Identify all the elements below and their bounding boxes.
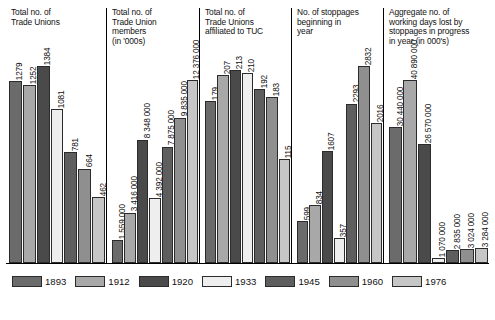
bar-group: 115 <box>279 8 290 263</box>
bar-value-label: 3 284 000 <box>482 212 490 247</box>
bar-group: 30 440 000 <box>389 8 402 263</box>
bar-group: 357 <box>334 8 345 263</box>
trade-union-statistics-chart: Total no. of Trade Unions127912521384108… <box>0 0 495 320</box>
legend-label: 1960 <box>362 277 383 287</box>
legend-swatch <box>329 276 359 287</box>
bar-group: 834 <box>309 8 320 263</box>
legend-swatch <box>75 276 105 287</box>
bar-1976: 12 376 000 <box>187 80 198 263</box>
bar-group: 3 024 000 <box>460 8 473 263</box>
bar-1912: 207 <box>217 75 228 263</box>
bar-group: 1252 <box>23 8 36 263</box>
bar-group: 40 890 000 <box>403 8 416 263</box>
bar-1912: 834 <box>309 205 320 263</box>
bar-1893: 599 <box>297 221 308 263</box>
bar-group: 2832 <box>358 8 369 263</box>
bar-group: 183 <box>266 8 277 263</box>
bar-1960: 183 <box>266 97 277 263</box>
legend-item-1893[interactable]: 1893 <box>12 276 66 287</box>
chart-panel-1: Total no. of Trade Unions127912521384108… <box>6 8 106 263</box>
legend-label: 1893 <box>45 277 66 287</box>
bar-group: 1081 <box>51 8 64 263</box>
bar-1945: 781 <box>64 152 77 263</box>
bar-group: 664 <box>78 8 91 263</box>
bar-1933: 4 392 000 <box>149 198 160 263</box>
chart-panel-2: Total no. of Trade Union members (in '00… <box>106 8 199 263</box>
bar-1960: 3 024 000 <box>460 249 473 263</box>
bar-group: 3 284 000 <box>475 8 488 263</box>
bar-group: 1607 <box>322 8 333 263</box>
bar-1920: 1384 <box>37 66 50 263</box>
bar-1933: 1081 <box>51 109 64 263</box>
bar-1960: 9 835 000 <box>174 118 185 263</box>
bar-group: 207 <box>217 8 228 263</box>
legend-item-1960[interactable]: 1960 <box>329 276 383 287</box>
legend-item-1976[interactable]: 1976 <box>392 276 446 287</box>
bar-1912: 1252 <box>23 85 36 263</box>
bar-1933: 357 <box>334 238 345 263</box>
panel-bars: 1 559 0003 416 0008 348 0004 392 0007 87… <box>112 8 199 263</box>
legend-item-1933[interactable]: 1933 <box>202 276 256 287</box>
panel-bars: 1279125213841081781664462 <box>9 8 106 263</box>
bar-group: 179 <box>205 8 216 263</box>
bar-group: 8 348 000 <box>137 8 148 263</box>
bar-group: 2016 <box>371 8 382 263</box>
chart-baseline <box>6 263 489 264</box>
bar-1976: 2016 <box>371 123 382 263</box>
chart-legend: 1893191219201933194519601976 <box>12 276 482 287</box>
bar-1960: 664 <box>78 169 91 264</box>
bar-1945: 7 875 000 <box>162 147 173 263</box>
legend-label: 1945 <box>298 277 319 287</box>
bar-group: 3 416 000 <box>124 8 135 263</box>
chart-panel-5: Aggregate no. of working days lost by st… <box>383 8 489 263</box>
bar-group: 210 <box>242 8 253 263</box>
bar-group: 7 875 000 <box>162 8 173 263</box>
bar-1960: 2832 <box>358 66 369 263</box>
bar-group: 599 <box>297 8 308 263</box>
legend-item-1945[interactable]: 1945 <box>265 276 319 287</box>
legend-swatch <box>12 276 42 287</box>
bar-1912: 3 416 000 <box>124 213 135 264</box>
bar-group: 1384 <box>37 8 50 263</box>
chart-panels: Total no. of Trade Unions127912521384108… <box>6 8 489 263</box>
bar-1945: 2293 <box>346 104 357 264</box>
legend-swatch <box>392 276 422 287</box>
bar-group: 1 559 000 <box>112 8 123 263</box>
bar-group: 1279 <box>9 8 22 263</box>
legend-label: 1920 <box>172 277 193 287</box>
bar-group: 1 070 000 <box>432 8 445 263</box>
bar-group: 781 <box>64 8 77 263</box>
legend-item-1920[interactable]: 1920 <box>139 276 193 287</box>
bar-1933: 210 <box>242 73 253 263</box>
bar-group: 2 835 000 <box>446 8 459 263</box>
chart-panel-4: No. of stoppages beginning in year599834… <box>291 8 383 263</box>
bar-1920: 8 348 000 <box>137 140 148 263</box>
panel-bars: 5998341607357229328322016 <box>297 8 383 263</box>
legend-swatch <box>202 276 232 287</box>
bar-1976: 462 <box>92 197 105 263</box>
bar-1920: 26 570 000 <box>418 144 431 263</box>
bar-1920: 213 <box>230 70 241 263</box>
legend-label: 1933 <box>235 277 256 287</box>
bar-1912: 40 890 000 <box>403 80 416 263</box>
bar-1976: 115 <box>279 159 290 263</box>
panel-bars: 179207213210192183115 <box>205 8 291 263</box>
chart-panel-3: Total no. of Trade Unions affiliated to … <box>199 8 291 263</box>
bar-1945: 2 835 000 <box>446 250 459 263</box>
legend-item-1912[interactable]: 1912 <box>75 276 129 287</box>
bar-1893: 1 559 000 <box>112 240 123 263</box>
bar-group: 2293 <box>346 8 357 263</box>
bar-group: 9 835 000 <box>174 8 185 263</box>
bar-group: 213 <box>230 8 241 263</box>
bar-1893: 30 440 000 <box>389 127 402 263</box>
bar-group: 462 <box>92 8 105 263</box>
bar-1893: 179 <box>205 101 216 263</box>
bar-group: 192 <box>254 8 265 263</box>
bar-1976: 3 284 000 <box>475 248 488 263</box>
bar-group: 4 392 000 <box>149 8 160 263</box>
bar-1920: 1607 <box>322 151 333 263</box>
legend-swatch <box>139 276 169 287</box>
legend-label: 1976 <box>425 277 446 287</box>
bar-1893: 1279 <box>9 81 22 263</box>
bar-group: 26 570 000 <box>418 8 431 263</box>
